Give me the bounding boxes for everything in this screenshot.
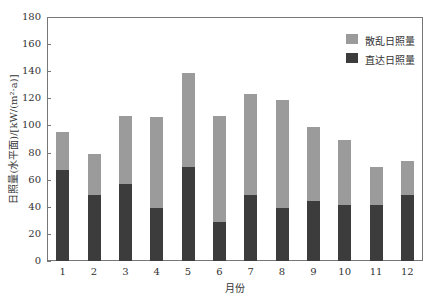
bar-segment-direct [338,205,351,261]
bar-segment-diffuse [370,167,383,205]
x-tick-label: 5 [173,266,203,277]
x-tick-label: 11 [361,266,391,277]
y-tick-mark [47,261,51,262]
bar-segment-direct [370,205,383,261]
x-axis-label: 月份 [225,280,245,295]
bar-segment-direct [276,208,289,261]
bar-segment-direct [88,195,101,261]
bar-segment-diffuse [56,132,69,170]
bar-segment-direct [56,170,69,261]
bar-segment-direct [244,195,257,261]
bar-segment-direct [401,195,414,261]
stacked-bar [150,117,163,261]
y-tick-mark [47,180,51,181]
stacked-bar [213,116,226,261]
bar-segment-diffuse [338,140,351,205]
bar-segment-diffuse [307,127,320,202]
bar-segment-diffuse [213,116,226,222]
stacked-bar [276,100,289,261]
y-tick-mark [47,17,51,18]
y-tick-mark [47,98,51,99]
bar-segment-diffuse [119,116,132,184]
bar-segment-diffuse [401,161,414,195]
bar-segment-diffuse [182,73,195,168]
x-tick-label: 12 [392,266,422,277]
stacked-bar [307,127,320,261]
x-tick-label: 9 [298,266,328,277]
y-tick-label: 0 [0,256,41,266]
stacked-bar [56,132,69,261]
y-tick-mark [47,71,51,72]
x-tick-label: 10 [330,266,360,277]
stacked-bar [338,140,351,261]
y-axis-label: 日照量(水平面)/[kW/(m²·a)] [5,74,20,203]
bar-segment-diffuse [276,100,289,208]
stacked-bar [401,161,414,261]
legend-swatch-direct [346,53,358,63]
x-tick-label: 2 [79,266,109,277]
y-tick-label: 20 [0,229,41,239]
x-tick-label: 7 [236,266,266,277]
bar-segment-direct [307,201,320,261]
legend-label-diffuse: 散乱日照量 [365,33,415,48]
y-tick-label: 180 [0,12,41,22]
legend-label-direct: 直达日照量 [365,52,415,67]
x-tick-label: 3 [110,266,140,277]
bar-segment-direct [150,208,163,261]
x-tick-label: 1 [48,266,78,277]
bar-segment-direct [119,184,132,261]
stacked-bar [119,116,132,261]
bar-segment-diffuse [88,154,101,195]
x-tick-label: 8 [267,266,297,277]
y-tick-mark [47,125,51,126]
y-tick-mark [47,153,51,154]
bar-segment-diffuse [244,94,257,194]
stacked-bar [182,73,195,261]
y-tick-label: 160 [0,39,41,49]
y-tick-mark [47,234,51,235]
stacked-bar [244,94,257,261]
y-tick-mark [47,207,51,208]
y-tick-mark [47,44,51,45]
legend-swatch-diffuse [346,34,358,44]
stacked-bar [370,167,383,261]
bar-segment-direct [182,167,195,261]
bar-segment-diffuse [150,117,163,208]
x-tick-label: 6 [204,266,234,277]
bar-segment-direct [213,222,226,261]
stacked-bar [88,154,101,261]
x-tick-label: 4 [142,266,172,277]
